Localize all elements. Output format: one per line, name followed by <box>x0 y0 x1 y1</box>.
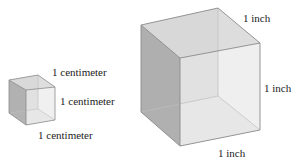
small-cube-right-label: 1 centimeter <box>60 95 115 107</box>
small-cube-top-label: 1 centimeter <box>52 66 107 78</box>
large-cube <box>141 8 260 146</box>
large-cube-top-label: 1 inch <box>243 12 270 24</box>
large-cube-bottom-label: 1 inch <box>218 147 245 159</box>
small-cube-front-face <box>26 87 55 125</box>
small-cube <box>9 75 55 125</box>
cube-diagram <box>0 0 298 168</box>
large-cube-front-face <box>180 43 260 146</box>
small-cube-bottom-label: 1 centimeter <box>38 129 93 141</box>
large-cube-right-label: 1 inch <box>264 82 291 94</box>
